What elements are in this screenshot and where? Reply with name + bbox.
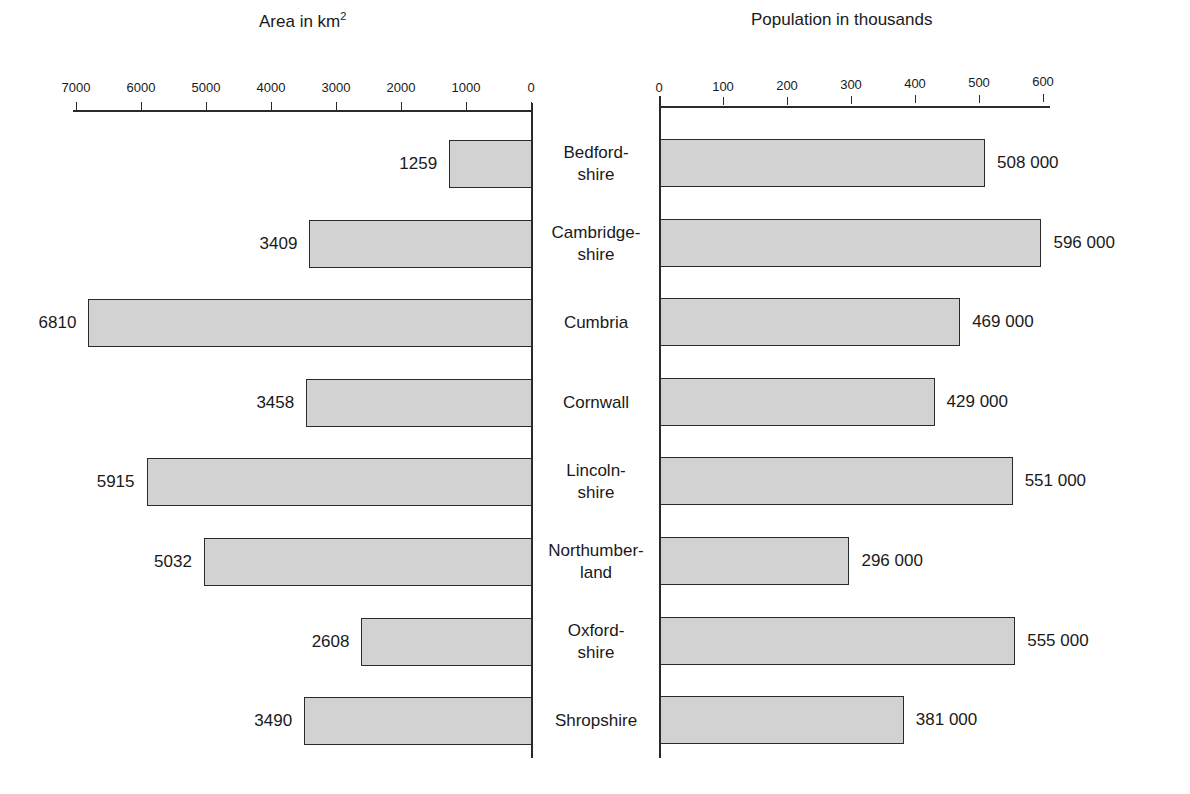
area-bar xyxy=(304,697,532,745)
left-tick-mark xyxy=(401,102,402,110)
category-label: Northumber- land xyxy=(533,540,659,584)
left-axis-title-text: Area in km xyxy=(259,12,340,31)
right-tick-label: 200 xyxy=(776,78,798,93)
right-tick-mark xyxy=(659,98,660,106)
right-tick-mark xyxy=(787,97,788,105)
area-value-label: 6810 xyxy=(39,313,77,333)
left-tick-label: 6000 xyxy=(127,80,156,95)
right-tick-label: 300 xyxy=(840,77,862,92)
population-value-label: 551 000 xyxy=(1025,471,1086,491)
category-label: Cambridge- shire xyxy=(533,222,659,266)
population-value-label: 555 000 xyxy=(1027,631,1088,651)
right-tick-label: 600 xyxy=(1032,74,1054,89)
population-bar xyxy=(660,298,960,346)
population-bar xyxy=(660,617,1015,665)
left-tick-mark xyxy=(271,102,272,110)
category-label: Cumbria xyxy=(533,312,659,334)
area-bar xyxy=(204,538,532,586)
area-value-label: 3458 xyxy=(256,393,294,413)
left-tick-mark xyxy=(466,102,467,110)
area-bar xyxy=(361,618,532,666)
population-bar xyxy=(660,219,1041,267)
right-x-axis-line xyxy=(659,106,1050,108)
area-value-label: 1259 xyxy=(399,154,437,174)
left-axis-title: Area in km2 xyxy=(259,10,346,32)
right-tick-mark xyxy=(915,95,916,103)
population-value-label: 296 000 xyxy=(861,551,922,571)
area-bar xyxy=(306,379,532,427)
area-bar xyxy=(147,458,532,506)
population-value-label: 596 000 xyxy=(1053,233,1114,253)
area-bar xyxy=(309,220,532,268)
area-value-label: 2608 xyxy=(312,632,350,652)
left-tick-label: 4000 xyxy=(257,80,286,95)
left-axis-title-superscript: 2 xyxy=(340,10,346,22)
left-tick-label: 2000 xyxy=(387,80,416,95)
left-tick-mark xyxy=(336,102,337,110)
population-value-label: 381 000 xyxy=(916,710,977,730)
left-tick-label: 3000 xyxy=(322,80,351,95)
area-value-label: 5032 xyxy=(154,552,192,572)
category-label: Cornwall xyxy=(533,392,659,414)
area-value-label: 3490 xyxy=(254,711,292,731)
left-tick-mark xyxy=(206,102,207,110)
area-value-label: 5915 xyxy=(97,472,135,492)
category-label: Bedford- shire xyxy=(533,142,659,186)
left-tick-mark xyxy=(531,102,532,110)
left-x-axis-line xyxy=(73,110,532,112)
area-value-label: 3409 xyxy=(260,234,298,254)
population-bar xyxy=(660,457,1013,505)
right-tick-mark xyxy=(851,96,852,104)
population-bar xyxy=(660,139,985,187)
population-value-label: 429 000 xyxy=(947,392,1008,412)
right-tick-label: 400 xyxy=(904,76,926,91)
right-tick-label: 500 xyxy=(968,75,990,90)
population-bar xyxy=(660,537,849,585)
left-tick-label: 7000 xyxy=(62,80,91,95)
right-axis-title: Population in thousands xyxy=(751,10,932,30)
population-value-label: 469 000 xyxy=(972,312,1033,332)
right-tick-label: 100 xyxy=(712,79,734,94)
left-tick-mark xyxy=(141,102,142,110)
population-value-label: 508 000 xyxy=(997,153,1058,173)
right-tick-label: 0 xyxy=(655,80,662,95)
population-bar xyxy=(660,378,935,426)
left-tick-label: 1000 xyxy=(452,80,481,95)
right-tick-mark xyxy=(1043,94,1044,102)
right-tick-mark xyxy=(723,97,724,105)
left-tick-label: 5000 xyxy=(192,80,221,95)
left-tick-label: 0 xyxy=(527,80,534,95)
population-bar xyxy=(660,696,904,744)
category-label: Oxford- shire xyxy=(533,620,659,664)
category-label: Lincoln- shire xyxy=(533,460,659,504)
area-bar xyxy=(449,140,532,188)
area-bar xyxy=(88,299,532,347)
category-label: Shropshire xyxy=(533,710,659,732)
right-tick-mark xyxy=(979,95,980,103)
left-tick-mark xyxy=(76,102,77,110)
